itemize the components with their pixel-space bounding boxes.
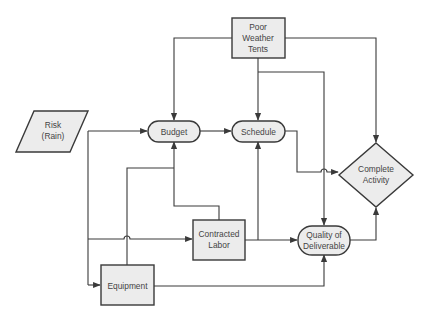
node-label: (Rain) bbox=[42, 131, 65, 141]
node-risk-rain: Risk(Rain) bbox=[16, 111, 88, 152]
node-schedule: Schedule bbox=[232, 121, 285, 142]
node-label: Poor bbox=[249, 22, 267, 32]
node-label: Risk bbox=[45, 120, 62, 130]
edge-equipment-budget bbox=[127, 168, 174, 265]
node-label: Activity bbox=[363, 175, 390, 185]
node-label: Schedule bbox=[241, 127, 276, 137]
node-label: Tents bbox=[248, 44, 268, 54]
flowchart-diagram: Risk(Rain) PoorWeatherTents Budget Sched… bbox=[0, 0, 429, 324]
node-quality-of-deliverable: Quality ofDeliverable bbox=[298, 226, 350, 255]
node-label: Complete bbox=[358, 164, 394, 174]
edge-quality-complete bbox=[350, 208, 376, 240]
edge-tents-budget bbox=[174, 38, 232, 120]
edge-schedule-complete bbox=[285, 131, 338, 172]
node-label: Contracted bbox=[199, 229, 240, 239]
svg-text:Risk(Rain): Risk(Rain) bbox=[42, 120, 65, 141]
svg-text:CompleteActivity: CompleteActivity bbox=[358, 164, 394, 185]
node-label: Labor bbox=[208, 240, 230, 250]
node-complete-activity: CompleteActivity bbox=[339, 143, 413, 207]
node-label: Deliverable bbox=[303, 241, 345, 251]
node-equipment: Equipment bbox=[101, 265, 154, 305]
edge-tents-quality bbox=[258, 72, 324, 225]
node-label: Budget bbox=[161, 127, 188, 137]
node-label: Equipment bbox=[107, 281, 148, 291]
node-poor-weather-tents: PoorWeatherTents bbox=[232, 18, 285, 58]
node-budget: Budget bbox=[148, 121, 200, 142]
svg-text:Quality ofDeliverable: Quality ofDeliverable bbox=[303, 230, 345, 251]
edge-risk-labor bbox=[88, 236, 192, 239]
node-label: Quality of bbox=[306, 230, 342, 240]
edge-tents-complete bbox=[285, 38, 376, 142]
edge-labor-budget bbox=[174, 142, 219, 220]
node-label: Weather bbox=[242, 33, 274, 43]
node-contracted-labor: ContractedLabor bbox=[193, 220, 245, 260]
